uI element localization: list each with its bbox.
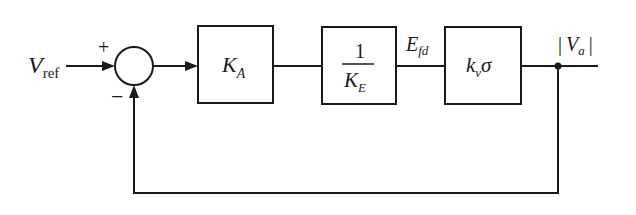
- plus-sign: +: [98, 36, 109, 58]
- block-diagram: Vref + − KA 1 KE Efd kvσ |Va|: [0, 0, 636, 215]
- feedback-arrowhead: [129, 85, 139, 98]
- input-arrowhead: [102, 61, 115, 71]
- block-exciter-numerator: 1: [355, 40, 365, 62]
- minus-sign: −: [111, 84, 123, 109]
- output-label: |Va|: [558, 33, 593, 58]
- block-exciter: 1 KE: [322, 27, 396, 104]
- block-generator: kvσ: [445, 27, 521, 104]
- efd-label: Efd: [405, 33, 429, 58]
- input-label: Vref: [28, 52, 59, 81]
- sum-to-ka-arrowhead: [185, 61, 198, 71]
- block-amplifier: KA: [198, 26, 273, 103]
- summing-junction: [115, 47, 153, 85]
